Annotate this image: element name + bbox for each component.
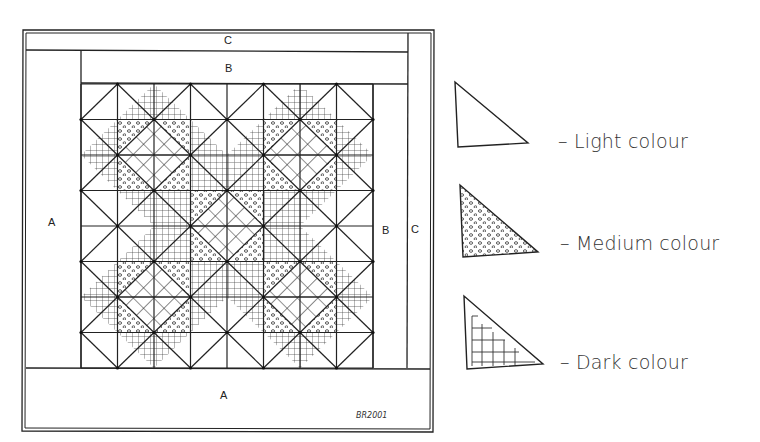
artist-signature: BR2001	[356, 411, 387, 420]
border-label-right-outer: C	[411, 223, 419, 235]
legend-label-medium: – Medium colour	[560, 232, 719, 254]
legend-triangle-dark	[464, 296, 543, 369]
legend-label-dark: – Dark colour	[560, 351, 688, 373]
border-label-top-inner: B	[225, 62, 232, 74]
legend-label-light: – Light colour	[558, 130, 688, 152]
legend-triangle-light	[455, 82, 528, 147]
border-label-left: A	[48, 216, 55, 228]
border-label-top-outer: C	[224, 34, 232, 46]
border-label-right-inner: B	[382, 224, 389, 236]
legend-triangle-medium	[460, 185, 538, 257]
border-label-bottom: A	[220, 389, 227, 401]
quilt-diagram	[0, 0, 760, 442]
